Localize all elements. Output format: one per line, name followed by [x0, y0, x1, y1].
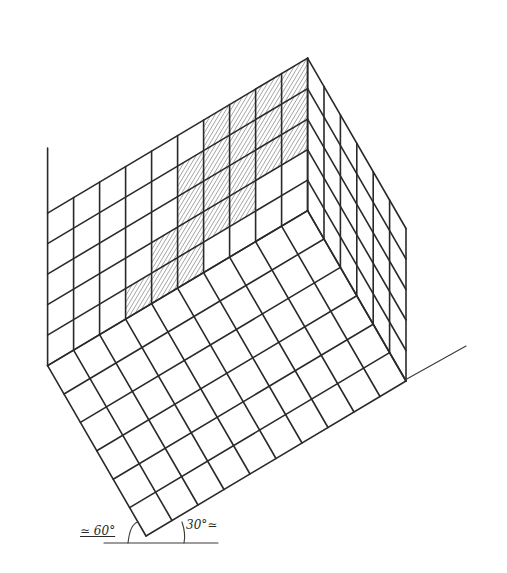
angle-label-30: 30°≃	[186, 518, 217, 532]
left-wall-grid	[48, 58, 308, 366]
hatched-cell	[86, 263, 230, 329]
floor-line	[97, 296, 357, 451]
floor-line	[64, 239, 324, 394]
right-wall-grid	[308, 58, 406, 381]
angle-arc-30	[182, 522, 185, 543]
angle-arc-60	[128, 522, 138, 543]
ground-line-right	[405, 346, 466, 380]
floor-line	[113, 324, 373, 479]
floor-line	[80, 267, 340, 422]
floor-line	[146, 381, 406, 536]
angle-label-60: ≃ 60°	[80, 524, 115, 538]
hatched-cell	[112, 217, 256, 283]
isometric-grid-sketch	[0, 0, 507, 573]
floor-line	[130, 353, 390, 508]
hatched-cell	[138, 171, 282, 237]
